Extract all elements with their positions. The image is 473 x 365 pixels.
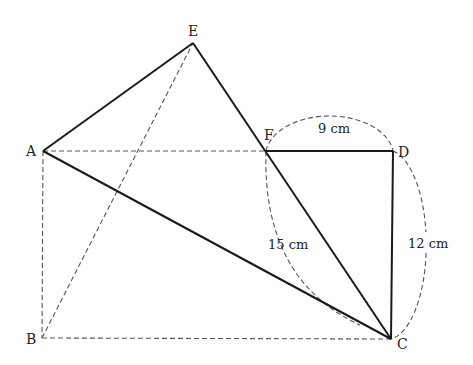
label-F: F (264, 127, 274, 143)
measure-FD: 9 cm (318, 121, 350, 136)
measure-FC: 15 cm (268, 237, 308, 252)
dashed-line-AB (42, 151, 43, 338)
label-B: B (26, 331, 36, 347)
label-D: D (398, 144, 409, 160)
solid-line-EC (193, 43, 391, 339)
measure-DC: 12 cm (408, 236, 448, 251)
label-A: A (25, 143, 37, 159)
solid-line-AC (43, 151, 391, 339)
solid-line-DC (391, 151, 393, 339)
label-E: E (188, 23, 198, 39)
dashed-line-BC (42, 338, 391, 339)
label-C: C (397, 336, 408, 352)
solid-line-AE (43, 43, 193, 151)
geometry-diagram: E A F D B C 9 cm 12 cm 15 cm (0, 0, 473, 365)
